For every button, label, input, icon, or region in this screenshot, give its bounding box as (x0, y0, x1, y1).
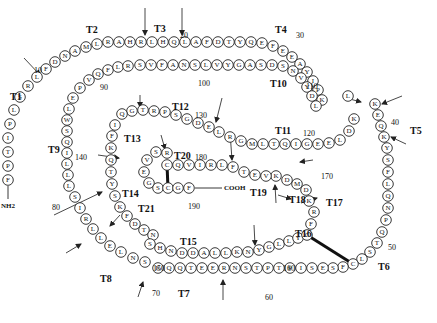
svg-text:R: R (165, 149, 170, 157)
residue: Q (377, 227, 388, 238)
svg-text:T: T (255, 264, 260, 272)
svg-text:S: S (281, 62, 285, 70)
residue: C (163, 183, 174, 194)
residue: Q (376, 121, 387, 132)
fragment-label: T8 (100, 273, 112, 284)
svg-text:E: E (71, 94, 75, 102)
fragment-label: T16 (295, 228, 312, 239)
residue: C (348, 259, 359, 270)
svg-text:R: R (209, 161, 214, 169)
residue: M (292, 179, 303, 190)
svg-text:S: S (73, 193, 77, 201)
residue: L (9, 105, 20, 116)
svg-text:F: F (110, 132, 114, 140)
position-number: 70 (152, 289, 160, 298)
residue: V (296, 73, 307, 84)
residue: A (70, 46, 81, 57)
svg-text:T: T (189, 264, 194, 272)
svg-text:L: L (277, 240, 281, 248)
fragment-label: T15 (180, 236, 197, 247)
svg-text:E: E (321, 264, 325, 272)
residue: R (206, 160, 217, 171)
residue: D (50, 57, 61, 68)
svg-text:Q: Q (175, 161, 180, 169)
svg-text:H: H (127, 38, 132, 46)
residue: V (142, 155, 153, 166)
svg-text:K: K (306, 197, 311, 205)
n-terminus-label: NH2 (1, 202, 16, 210)
svg-text:H: H (160, 38, 165, 46)
svg-text:W: W (64, 116, 71, 124)
svg-text:N: N (232, 264, 237, 272)
residue: K (232, 247, 243, 258)
svg-text:E: E (281, 47, 285, 55)
residue: F (3, 175, 14, 186)
svg-text:S: S (259, 61, 263, 69)
svg-text:S: S (156, 184, 160, 192)
residue: L (88, 224, 99, 235)
svg-text:Y: Y (109, 180, 114, 188)
cleavage-arrow-icon (382, 96, 402, 104)
residue: G (173, 183, 184, 194)
residue: R (81, 214, 92, 225)
svg-text:F: F (205, 38, 209, 46)
svg-text:G: G (146, 179, 151, 187)
residue: C (162, 160, 173, 171)
residue: L (258, 139, 269, 150)
residue: G (302, 139, 313, 150)
residue: Y (223, 60, 234, 71)
residue: P (381, 215, 392, 226)
svg-text:P: P (266, 264, 270, 272)
cleavage-arrow-icon (216, 98, 222, 122)
svg-text:L: L (12, 106, 16, 114)
svg-text:S: S (310, 264, 314, 272)
residue: S (151, 147, 162, 158)
svg-text:Y: Y (225, 61, 230, 69)
svg-text:Y: Y (237, 38, 242, 46)
svg-text:N: N (245, 248, 250, 256)
svg-text:N: N (385, 204, 390, 212)
position-number: 130 (195, 111, 207, 120)
residue: Q (383, 191, 394, 202)
svg-text:S: S (65, 127, 69, 135)
residue: E (257, 38, 268, 49)
svg-text:P: P (6, 162, 10, 170)
svg-text:K: K (234, 248, 239, 256)
residue: E (324, 138, 335, 149)
svg-text:V: V (214, 61, 219, 69)
svg-text:P: P (8, 120, 12, 128)
residue: R (309, 207, 320, 218)
fragment-label: T10 (270, 78, 287, 89)
residue: L (221, 248, 232, 259)
svg-text:S: S (174, 111, 178, 119)
fragment-label: T14 (122, 188, 139, 199)
svg-text:D: D (132, 220, 137, 228)
residue: R (103, 37, 114, 48)
residue: N (230, 263, 241, 274)
svg-text:R: R (152, 107, 157, 115)
residue: T (138, 105, 149, 116)
svg-text:E: E (108, 242, 112, 250)
residue: L (113, 62, 124, 73)
svg-text:K: K (273, 172, 278, 180)
svg-text:A: A (247, 61, 252, 69)
residue: Y (382, 143, 393, 154)
svg-text:K: K (117, 203, 122, 211)
residue: F (103, 65, 114, 76)
svg-text:A: A (116, 38, 121, 46)
residue: Q (280, 139, 291, 150)
svg-text:Y: Y (256, 246, 261, 254)
residue: S (140, 257, 151, 268)
svg-text:L: L (119, 248, 123, 256)
svg-text:G: G (184, 115, 189, 123)
residue: F (268, 41, 279, 52)
svg-text:G: G (129, 107, 134, 115)
residue: I (62, 148, 73, 159)
position-number: 40 (391, 118, 399, 127)
residue: I (3, 133, 14, 144)
svg-text:R: R (139, 38, 144, 46)
residue: A (191, 37, 202, 48)
residue: Q (106, 155, 117, 166)
fragment-label: T9 (48, 144, 60, 155)
position-number: 100 (198, 79, 210, 88)
